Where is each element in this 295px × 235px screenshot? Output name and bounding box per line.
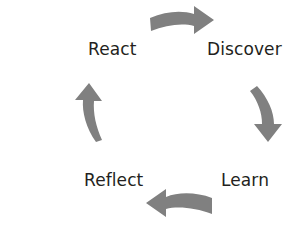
arrow-learn-to-reflect: [144, 186, 216, 226]
arrow-reflect-to-react: [64, 82, 104, 148]
node-label-reflect: Reflect: [84, 172, 143, 189]
arrow-react-to-discover: [146, 4, 216, 40]
arrow-discover-to-learn: [249, 82, 285, 144]
cycle-diagram: React Discover Reflect Learn: [0, 0, 295, 235]
node-label-learn: Learn: [221, 172, 269, 189]
node-label-discover: Discover: [207, 41, 282, 58]
node-label-react: React: [88, 41, 136, 58]
